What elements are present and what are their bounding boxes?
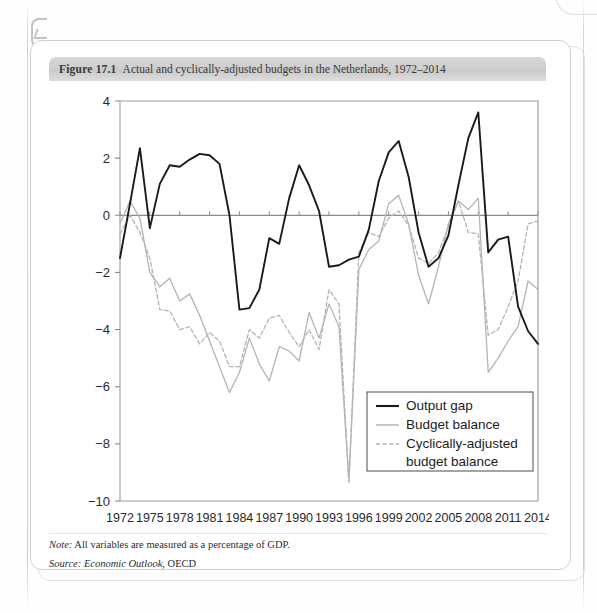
x-axis-label: 1972 [106,511,134,525]
x-axis-label: 1984 [226,511,254,525]
x-axis-label: 1996 [345,511,373,525]
y-axis-label: −10 [88,494,110,509]
source-rest: , OECD [162,558,196,569]
page-corner-artifact [556,0,597,15]
series-line-output-gap [120,112,538,343]
x-axis-label: 2005 [435,511,463,525]
y-axis-label: −6 [95,379,110,394]
x-axis-label: 1975 [136,511,164,525]
source-line: Source: Economic Outlook, OECD [49,558,519,569]
chart-plot-area: 420−2−4−6−8−1019721975197819811984198719… [49,89,549,544]
y-axis-label: 0 [103,208,110,223]
source-label: Source: [49,558,81,569]
figure-title: Actual and cyclically-adjusted budgets i… [117,63,446,75]
x-axis-label: 2011 [495,511,522,525]
figure-header: Figure 17.1Actual and cyclically-adjuste… [49,57,546,81]
figure-notes: Note: All variables are measured as a pe… [49,539,519,570]
y-axis-label: 4 [103,94,110,109]
y-axis-label: −4 [95,322,110,337]
figure-number: Figure 17.1 [49,63,117,75]
x-axis-label: 1978 [166,511,194,525]
page-edge-left [27,0,28,613]
x-axis-label: 1987 [255,511,283,525]
note-divider [49,533,547,534]
y-axis-label: −2 [95,265,110,280]
line-chart: 420−2−4−6−8−1019721975197819811984198719… [49,89,549,544]
x-axis-label: 2008 [464,511,492,525]
figure-card: Figure 17.1Actual and cyclically-adjuste… [30,40,571,570]
source-title: Economic Outlook [81,558,162,569]
x-axis-label: 2014 [524,511,549,525]
legend-label-3-line2: budget balance [406,454,498,469]
x-axis-label: 1990 [285,511,313,525]
x-axis-label: 2002 [405,511,433,525]
note-line: Note: All variables are measured as a pe… [49,539,519,550]
x-axis-label: 1981 [196,511,224,525]
note-text: All variables are measured as a percenta… [72,539,290,550]
legend-label-1: Output gap [406,398,473,413]
y-axis-label: −8 [95,436,110,451]
legend-label-3: Cyclically-adjusted [406,436,518,451]
note-label: Note: [49,539,72,550]
x-axis-label: 1993 [315,511,343,525]
y-axis-label: 2 [103,151,110,166]
page-background: Figure 17.1Actual and cyclically-adjuste… [0,0,597,613]
legend-label-2: Budget balance [406,417,500,432]
x-axis-label: 1999 [375,511,403,525]
